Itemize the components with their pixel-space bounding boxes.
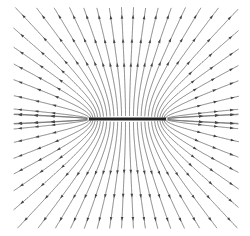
- field-line: [167, 109, 238, 118]
- arrow-icon: [213, 101, 217, 104]
- field-line: [155, 9, 238, 117]
- arrow-icon: [104, 39, 107, 43]
- field-line: [133, 8, 145, 116]
- arrow-icon: [197, 131, 201, 134]
- arrow-icon: [95, 171, 98, 175]
- arrow-icon: [154, 217, 157, 221]
- arrow-icon: [199, 115, 203, 118]
- field-line: [130, 7, 134, 116]
- arrow-icon: [18, 96, 22, 99]
- arrow-icon: [178, 218, 181, 222]
- arrow-icon: [86, 62, 89, 66]
- arrow-icon: [19, 168, 23, 171]
- field-line: [158, 31, 239, 117]
- arrow-icon: [104, 194, 107, 198]
- arrow-icon: [230, 153, 234, 156]
- arrow-icon: [74, 218, 77, 222]
- arrow-icon: [193, 15, 196, 19]
- arrow-icon: [84, 194, 87, 198]
- field-line: [97, 122, 118, 229]
- arrow-icon: [86, 15, 89, 19]
- arrow-icon: [157, 171, 160, 175]
- arrow-icon: [131, 39, 134, 43]
- arrow-icon: [195, 97, 199, 100]
- arrow-icon: [19, 67, 23, 70]
- arrow-icon: [166, 62, 169, 66]
- arrow-icon: [18, 81, 22, 84]
- arrow-icon: [73, 15, 76, 19]
- arrow-icon: [99, 217, 102, 221]
- arrow-icon: [148, 194, 151, 198]
- arrow-icon: [168, 38, 171, 42]
- arrow-icon: [95, 194, 98, 198]
- arrow-icon: [193, 88, 197, 91]
- arrow-icon: [102, 63, 105, 67]
- arrow-icon: [37, 89, 41, 92]
- arrow-icon: [58, 15, 61, 19]
- arrow-icon: [197, 105, 201, 108]
- arrow-icon: [212, 89, 216, 92]
- arrow-icon: [166, 217, 169, 221]
- field-line: [122, 7, 126, 116]
- arrow-icon: [230, 83, 234, 86]
- arrow-icon: [37, 147, 41, 150]
- arrow-icon: [52, 131, 56, 134]
- arrow-icon: [132, 217, 135, 221]
- arrow-icon: [212, 146, 216, 149]
- arrow-icon: [158, 39, 161, 43]
- arrow-icon: [231, 97, 235, 100]
- field-line: [130, 122, 134, 228]
- arrow-icon: [129, 170, 132, 174]
- arrow-icon: [122, 194, 125, 198]
- field-line: [158, 121, 239, 207]
- field-line: [168, 115, 238, 119]
- arrow-icon: [231, 139, 235, 142]
- field-line: [14, 121, 93, 175]
- arrow-icon: [103, 171, 106, 175]
- field-line: [137, 8, 158, 116]
- arrow-icon: [121, 15, 124, 19]
- arrow-icon: [84, 38, 87, 42]
- arrow-icon: [18, 139, 22, 142]
- arrow-icon: [150, 171, 153, 175]
- arrow-icon: [176, 61, 179, 65]
- arrow-icon: [73, 194, 76, 198]
- arrow-icon: [55, 96, 59, 99]
- arrow-icon: [139, 194, 142, 198]
- field-line: [162, 121, 238, 173]
- arrow-icon: [180, 38, 183, 42]
- field-line: [110, 122, 122, 228]
- arrow-icon: [179, 194, 182, 198]
- field-line: [168, 120, 238, 124]
- arrow-icon: [95, 39, 98, 43]
- arrow-icon: [113, 194, 116, 198]
- field-line: [14, 115, 87, 119]
- arrow-icon: [166, 171, 169, 175]
- field-line: [97, 8, 118, 116]
- field-line: [148, 8, 201, 117]
- arrow-icon: [130, 63, 133, 67]
- arrow-icon: [154, 15, 157, 19]
- arrow-icon: [132, 15, 135, 19]
- field-line: [122, 122, 126, 228]
- arrow-icon: [57, 147, 61, 150]
- arrow-icon: [72, 38, 75, 42]
- field-line: [167, 120, 238, 129]
- arrow-icon: [229, 167, 233, 170]
- arrow-icon: [116, 63, 119, 67]
- arrow-icon: [195, 139, 199, 142]
- field-line: [152, 8, 219, 117]
- arrow-icon: [143, 15, 146, 19]
- arrow-icon: [35, 100, 39, 103]
- arrow-icon: [38, 158, 42, 161]
- arrow-icon: [110, 15, 113, 19]
- field-line: [14, 109, 89, 118]
- field-line: [54, 8, 107, 117]
- field-line: [38, 121, 103, 228]
- arrow-icon: [130, 194, 133, 198]
- arrow-icon: [18, 154, 22, 157]
- arrow-icon: [122, 39, 125, 43]
- arrow-icon: [94, 61, 97, 65]
- arrow-icon: [168, 194, 171, 198]
- arrow-icon: [211, 157, 215, 160]
